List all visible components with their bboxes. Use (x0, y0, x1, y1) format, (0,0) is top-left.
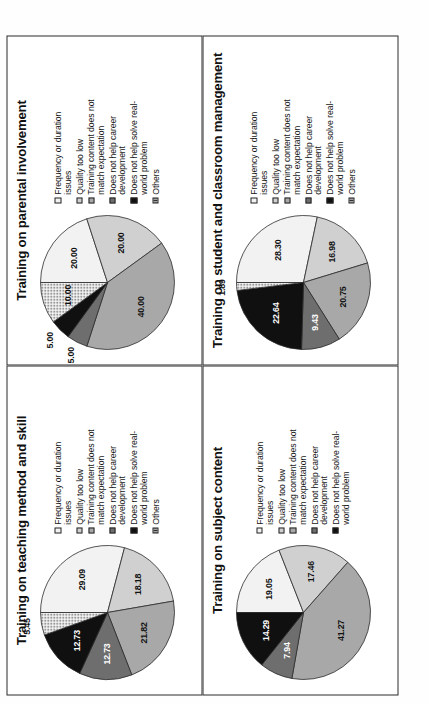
pie-chart-grid: Training on teaching method and skill 29… (6, 35, 398, 695)
legend-swatch-content_mismatch-icon (88, 197, 94, 203)
legend-label: Does not help career development (304, 115, 323, 194)
pie-svg (234, 543, 372, 681)
legend-label: Quality too low (271, 139, 281, 195)
legend-label: Does not help solve real- world problem (331, 430, 350, 524)
legend-swatch-quality-icon (76, 197, 82, 203)
pie-chart-3: 28.3016.9820.759.4322.641.89 (234, 213, 372, 351)
legend-swatch-real_world-icon (130, 527, 136, 533)
legend-label: Training content does not match expectat… (288, 429, 307, 524)
legend-label: Does not help career development (108, 445, 127, 524)
legend-label: Others (151, 499, 161, 525)
pie-wrap: 20.0020.0040.005.005.0010.00 (38, 207, 176, 357)
pie-slice-frequency (236, 215, 317, 282)
legend-label: Frequency or duration issues (255, 441, 274, 524)
legend-label: Does not help solve real- world problem (129, 100, 148, 194)
legend-swatch-career-icon (109, 527, 115, 533)
chart-panel-parental-involvement: Training on parental involvement 20.0020… (6, 35, 202, 365)
legend-item-content_mismatch: Training content does not match expectat… (86, 373, 105, 533)
legend-swatch-others-icon (152, 527, 158, 533)
legend-item-others: Others (347, 43, 357, 203)
legend-item-frequency: Frequency or duration issues (249, 43, 268, 203)
legend-label: Training content does not match expectat… (86, 429, 105, 524)
legend-item-content_mismatch: Training content does not match expectat… (86, 43, 105, 203)
legend-swatch-content_mismatch-icon (88, 527, 94, 533)
legend-label: Others (151, 169, 161, 195)
chart-legend-2: Frequency or duration issuesQuality too … (255, 373, 350, 537)
legend-label: Others (347, 169, 357, 195)
legend-label: Frequency or duration issues (53, 111, 72, 194)
legend-swatch-content_mismatch-icon (289, 527, 295, 533)
pie-svg (234, 213, 372, 351)
pie-wrap: 29.0918.1821.8212.7312.735.45 (38, 537, 176, 687)
chart-legend-1: Frequency or duration issuesQuality too … (53, 43, 160, 207)
legend-item-career: Does not help career development (108, 43, 127, 203)
page-title: Training on subject content (210, 373, 225, 687)
legend-item-career: Does not help career development (108, 373, 127, 533)
chart-panel-student-and-classroom-management: Training on student and classroom manage… (202, 35, 398, 365)
legend-item-real_world: Does not help solve real- world problem (129, 43, 148, 203)
legend-item-frequency: Frequency or duration issues (53, 373, 72, 533)
chart-panel-subject-content: Training on subject content 19.0517.4641… (202, 365, 398, 695)
chart-body: 20.0020.0040.005.005.0010.00 Frequency o… (31, 43, 183, 357)
legend-item-real_world: Does not help solve real- world problem (129, 373, 148, 533)
legend-item-quality: Quality too low (75, 373, 85, 533)
legend-item-others: Others (151, 373, 161, 533)
legend-item-real_world: Does not help solve real- world problem (331, 373, 350, 533)
page-title: Training on parental involvement (14, 43, 29, 357)
pie-svg (38, 213, 176, 351)
pie-chart-0: 29.0918.1821.8212.7312.735.45 (38, 543, 176, 681)
legend-swatch-others-icon (152, 197, 158, 203)
scanned-figure-page: Training on teaching method and skill 29… (0, 0, 429, 703)
legend-swatch-real_world-icon (326, 197, 332, 203)
legend-label: Does not help solve real- world problem (325, 100, 344, 194)
legend-label: Quality too low (277, 469, 287, 525)
legend-item-career: Does not help career development (304, 43, 323, 203)
pie-chart-1: 20.0020.0040.005.005.0010.00 (38, 213, 176, 351)
legend-label: Does not help solve real- world problem (129, 430, 148, 524)
legend-label: Frequency or duration issues (249, 111, 268, 194)
legend-swatch-quality-icon (76, 527, 82, 533)
legend-swatch-quality-icon (272, 197, 278, 203)
legend-item-frequency: Frequency or duration issues (53, 43, 72, 203)
pie-wrap: 28.3016.9820.759.4322.641.89 (234, 207, 372, 357)
legend-label: Does not help career development (310, 445, 329, 524)
legend-swatch-career-icon (311, 527, 317, 533)
chart-body: 19.0517.4641.277.9414.29 Frequency or du… (227, 373, 379, 687)
legend-swatch-frequency-icon (54, 527, 60, 533)
legend-swatch-quality-icon (278, 527, 284, 533)
chart-panel-teaching-method-and-skill: Training on teaching method and skill 29… (6, 365, 202, 695)
legend-swatch-frequency-icon (250, 197, 256, 203)
page-title: Training on student and classroom manage… (210, 43, 225, 357)
legend-swatch-career-icon (109, 197, 115, 203)
legend-item-career: Does not help career development (310, 373, 329, 533)
legend-item-quality: Quality too low (75, 43, 85, 203)
legend-label: Training content does not match expectat… (282, 99, 301, 194)
chart-legend-3: Frequency or duration issuesQuality too … (249, 43, 356, 207)
pie-chart-2: 19.0517.4641.277.9414.29 (234, 543, 372, 681)
legend-swatch-real_world-icon (130, 197, 136, 203)
legend-swatch-frequency-icon (256, 527, 262, 533)
legend-swatch-others-icon (348, 197, 354, 203)
legend-swatch-content_mismatch-icon (284, 197, 290, 203)
legend-item-real_world: Does not help solve real- world problem (325, 43, 344, 203)
legend-label: Does not help career development (108, 115, 127, 194)
legend-swatch-real_world-icon (332, 527, 338, 533)
legend-item-content_mismatch: Training content does not match expectat… (282, 43, 301, 203)
pie-svg (38, 543, 176, 681)
chart-body: 29.0918.1821.8212.7312.735.45 Frequency … (31, 373, 183, 687)
legend-label: Frequency or duration issues (53, 441, 72, 524)
legend-label: Training content does not match expectat… (86, 99, 105, 194)
legend-item-quality: Quality too low (271, 43, 281, 203)
legend-swatch-career-icon (305, 197, 311, 203)
legend-item-frequency: Frequency or duration issues (255, 373, 274, 533)
chart-legend-0: Frequency or duration issuesQuality too … (53, 373, 160, 537)
page-title: Training on teaching method and skill (14, 373, 29, 687)
legend-item-content_mismatch: Training content does not match expectat… (288, 373, 307, 533)
pie-slice-real_world (236, 282, 303, 349)
legend-label: Quality too low (75, 139, 85, 195)
legend-label: Quality too low (75, 469, 85, 525)
pie-wrap: 19.0517.4641.277.9414.29 (234, 537, 372, 687)
legend-item-others: Others (151, 43, 161, 203)
legend-swatch-frequency-icon (54, 197, 60, 203)
chart-body: 28.3016.9820.759.4322.641.89 Frequency o… (227, 43, 379, 357)
